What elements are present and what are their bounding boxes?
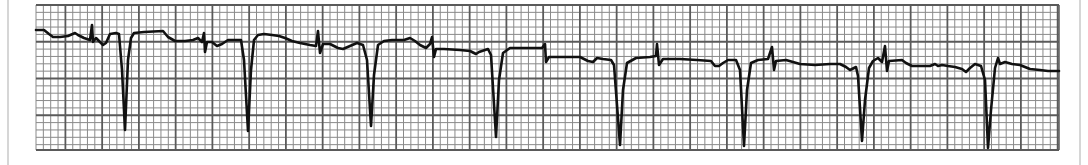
ecg-strip-chart — [0, 0, 1088, 165]
